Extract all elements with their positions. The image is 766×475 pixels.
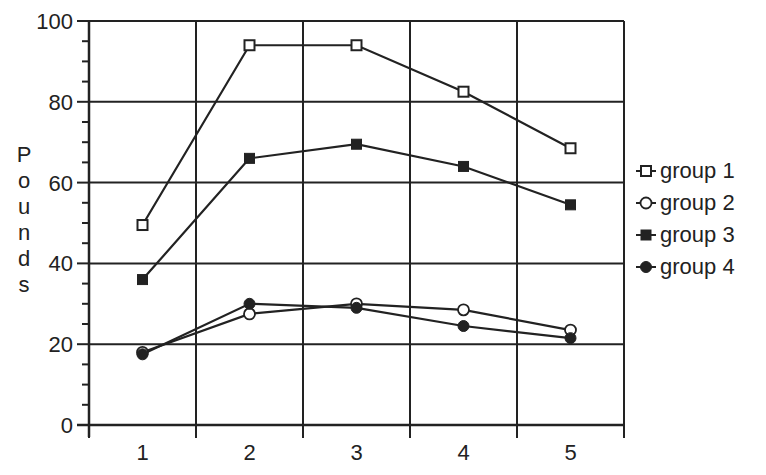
open-square-icon: [641, 166, 651, 176]
x-tick-label: 2: [243, 440, 255, 465]
y-tick-label: 80: [49, 90, 73, 115]
y-axis-label-char: n: [18, 220, 30, 245]
x-tick-label: 3: [350, 440, 362, 465]
legend-item: group 3: [636, 222, 735, 247]
x-axis-ticks: 12345: [89, 425, 624, 465]
series-group-3: [143, 144, 571, 279]
data-point: [459, 161, 469, 171]
x-tick-label: 4: [457, 440, 469, 465]
series-group-1: [143, 45, 571, 225]
y-axis-label-char: o: [18, 168, 30, 193]
y-tick-label: 100: [36, 9, 73, 34]
open-circle-icon: [641, 198, 652, 209]
data-point: [138, 220, 148, 230]
series-markers-group-1: [138, 40, 576, 230]
legend: group 1group 2group 3group 4: [636, 158, 735, 279]
legend-label: group 4: [660, 254, 735, 279]
x-tick-label: 1: [136, 440, 148, 465]
legend-label: group 2: [660, 190, 735, 215]
axes: [77, 21, 624, 437]
y-axis-ticks: 020406080100: [36, 9, 89, 438]
y-tick-label: 20: [49, 332, 73, 357]
data-point: [566, 143, 576, 153]
series-line: [143, 45, 571, 225]
legend-label: group 3: [660, 222, 735, 247]
data-point: [245, 40, 255, 50]
legend-label: group 1: [660, 158, 735, 183]
legend-item: group 2: [636, 190, 735, 215]
data-series: [137, 40, 576, 360]
series-markers-group-4: [137, 298, 576, 360]
data-point: [138, 275, 148, 285]
y-axis-label: Pounds: [17, 142, 32, 297]
legend-item: group 1: [636, 158, 735, 183]
y-axis-label-char: d: [18, 246, 30, 271]
data-point: [351, 302, 362, 313]
y-tick-label: 40: [49, 251, 73, 276]
data-point: [244, 308, 255, 319]
filled-circle-icon: [641, 262, 652, 273]
data-point: [244, 298, 255, 309]
data-point: [459, 87, 469, 97]
data-point: [565, 333, 576, 344]
data-point: [352, 139, 362, 149]
data-point: [137, 349, 148, 360]
y-axis-label-char: s: [19, 272, 30, 297]
legend-item: group 4: [636, 254, 735, 279]
y-tick-label: 60: [49, 171, 73, 196]
y-tick-label: 0: [61, 413, 73, 438]
data-point: [566, 200, 576, 210]
line-chart: 020406080100 12345 Pounds group 1group 2…: [0, 0, 766, 475]
data-point: [458, 321, 469, 332]
y-axis-label-char: u: [18, 194, 30, 219]
data-point: [458, 304, 469, 315]
grid: [89, 21, 624, 425]
data-point: [352, 40, 362, 50]
data-point: [245, 153, 255, 163]
y-axis-label-char: P: [17, 142, 32, 167]
x-tick-label: 5: [564, 440, 576, 465]
filled-square-icon: [641, 230, 651, 240]
series-line: [143, 144, 571, 279]
